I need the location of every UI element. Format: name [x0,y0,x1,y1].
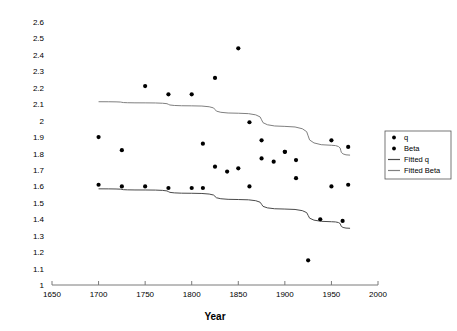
y-tick-label: 1 [40,281,45,290]
y-tick-label: 1.2 [33,248,45,257]
y-tick-label: 1.6 [33,182,45,191]
data-point-q [247,184,251,188]
y-tick-label: 1.8 [33,150,45,159]
scatter-plot: 11.11.21.31.41.51.61.71.81.922.12.22.32.… [0,0,457,331]
data-point-q [213,165,217,169]
data-point-q [236,166,240,170]
data-point-beta [166,92,170,96]
x-tick-label: 1650 [43,290,61,299]
x-tick-label: 1750 [136,290,154,299]
legend-label-q: q [404,133,408,142]
data-point-q [294,176,298,180]
y-tick-label: 2.3 [33,67,45,76]
data-point-beta [120,148,124,152]
data-point-q [225,169,229,173]
data-point-q [190,186,194,190]
y-tick-label: 1.4 [33,215,45,224]
data-point-beta [283,150,287,154]
data-point-beta [143,84,147,88]
data-point-q [96,183,100,187]
data-point-beta [96,135,100,139]
y-tick-label: 2 [40,117,45,126]
data-point-q [166,186,170,190]
x-tick-label: 1850 [229,290,247,299]
y-tick-label: 2.1 [33,100,45,109]
x-axis-tick-labels: 16501700175018001850190019502000 [43,290,387,299]
data-point-beta [190,92,194,96]
data-point-q [259,156,263,160]
x-axis-title: Year [204,311,225,322]
y-tick-label: 1.1 [33,265,45,274]
data-point-beta [259,138,263,142]
data-point-q [143,184,147,188]
legend: qBetaFitted qFitted Beta [385,131,451,179]
y-tick-label: 2.6 [33,18,45,27]
y-tick-label: 2.5 [33,34,45,43]
y-tick-label: 2.2 [33,84,45,93]
fitted-curve-fitted-beta [99,102,350,155]
y-tick-label: 1.5 [33,199,45,208]
x-tick-label: 1950 [323,290,341,299]
legend-label-fitted-q: Fitted q [404,155,429,164]
fitted-curve-fitted-q [99,189,350,228]
data-point-q [346,183,350,187]
data-point-beta [346,145,350,149]
x-tick-label: 1800 [183,290,201,299]
chart-container: 11.11.21.31.41.51.61.71.81.922.12.22.32.… [0,0,457,331]
x-tick-label: 1700 [90,290,108,299]
y-tick-label: 1.9 [33,133,45,142]
fitted-curves [99,102,350,229]
y-tick-label: 1.3 [33,232,45,241]
data-point-q [341,219,345,223]
data-point-q [272,160,276,164]
data-point-q [318,217,322,221]
y-tick-label: 1.7 [33,166,45,175]
legend-label-fitted-beta: Fitted Beta [404,166,441,175]
data-point-beta [329,138,333,142]
data-point-beta [294,158,298,162]
data-point-q [201,186,205,190]
data-point-q [306,258,310,262]
legend-marker-beta [392,147,396,151]
data-point-beta [213,76,217,80]
data-point-beta [236,46,240,50]
y-tick-label: 2.4 [33,51,45,60]
x-tick-label: 1900 [276,290,294,299]
data-point-q [329,184,333,188]
x-tick-label: 2000 [369,290,387,299]
data-point-beta [201,142,205,146]
legend-marker-q [392,136,396,140]
legend-label-beta: Beta [404,144,420,153]
y-axis-tick-labels: 11.11.21.31.41.51.61.71.81.922.12.22.32.… [33,18,45,290]
data-point-beta [247,120,251,124]
x-axis-tick-marks [52,281,378,285]
data-point-q [120,184,124,188]
data-point-markers [96,46,350,262]
